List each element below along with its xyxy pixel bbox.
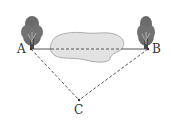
point-b-marker — [147, 48, 149, 50]
point-c-marker — [78, 99, 80, 101]
point-a-marker — [30, 48, 32, 50]
diagram-canvas: A B C — [0, 0, 171, 124]
pond-shape — [50, 32, 123, 62]
label-b: B — [152, 42, 161, 56]
label-a: A — [16, 42, 26, 56]
label-c: C — [74, 103, 83, 117]
